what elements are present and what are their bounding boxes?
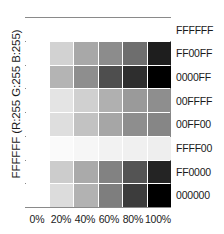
swatch-cell — [123, 89, 147, 112]
swatch-cell — [99, 161, 123, 184]
swatch-cell — [148, 184, 172, 207]
swatch-cell — [25, 18, 49, 41]
row-label-000000: 000000 — [176, 183, 224, 207]
swatch-cell — [25, 113, 49, 136]
swatch-cell — [50, 89, 74, 112]
swatch-cell — [74, 66, 98, 89]
swatch-cell — [123, 113, 147, 136]
swatch-cell — [148, 89, 172, 112]
swatch-cell — [74, 89, 98, 112]
row-label-00ff00: 00FF00 — [176, 113, 224, 137]
swatch-cell — [99, 42, 123, 65]
swatch-cell — [25, 184, 49, 207]
swatch-cell — [74, 184, 98, 207]
swatch-cell — [50, 66, 74, 89]
x-tick-label: 40% — [73, 210, 97, 228]
swatch-grid — [25, 18, 171, 207]
swatch-cell — [99, 137, 123, 160]
swatch-cell — [123, 42, 147, 65]
swatch-cell — [74, 42, 98, 65]
x-tick-label: 60% — [97, 210, 121, 228]
swatch-cell — [123, 161, 147, 184]
swatch-cell — [50, 184, 74, 207]
row-label-ff00ff: FF00FF — [176, 42, 224, 66]
swatch-cell — [99, 184, 123, 207]
swatch-cell — [25, 161, 49, 184]
x-tick-label: 80% — [121, 210, 145, 228]
swatch-cell — [25, 42, 49, 65]
row-label-ffff00: FFFF00 — [176, 136, 224, 160]
x-tick-label: 100% — [145, 210, 171, 228]
x-axis-tick-labels: 0%20%40%60%80%100% — [25, 210, 171, 228]
swatch-cell — [50, 113, 74, 136]
row-label-0000ff: 0000FF — [176, 65, 224, 89]
swatch-cell — [74, 161, 98, 184]
swatch-cell — [74, 137, 98, 160]
color-matrix-chart: FFFFFF (R:255 G:255 B:255) FFFFFFFF00FF0… — [0, 0, 224, 234]
row-label-00ffff: 00FFFF — [176, 89, 224, 113]
swatch-cell — [148, 113, 172, 136]
swatch-cell — [25, 89, 49, 112]
swatch-cell — [74, 113, 98, 136]
row-label-column: FFFFFFFF00FF0000FF00FFFF00FF00FFFF00FF00… — [176, 18, 224, 207]
swatch-cell — [123, 184, 147, 207]
swatch-cell — [50, 137, 74, 160]
swatch-cell — [148, 18, 172, 41]
swatch-cell — [148, 66, 172, 89]
row-label-ff0000: FF0000 — [176, 160, 224, 184]
swatch-cell — [74, 18, 98, 41]
swatch-cell — [123, 18, 147, 41]
swatch-cell — [25, 66, 49, 89]
swatch-cell — [50, 18, 74, 41]
swatch-cell — [99, 113, 123, 136]
swatch-cell — [25, 137, 49, 160]
swatch-cell — [123, 66, 147, 89]
swatch-cell — [148, 161, 172, 184]
swatch-cell — [99, 89, 123, 112]
swatch-cell — [99, 18, 123, 41]
x-tick-label: 20% — [49, 210, 73, 228]
swatch-cell — [148, 137, 172, 160]
x-tick-label: 0% — [25, 210, 49, 228]
swatch-cell — [123, 137, 147, 160]
swatch-cell — [50, 42, 74, 65]
swatch-cell — [99, 66, 123, 89]
row-label-ffffff: FFFFFF — [176, 18, 224, 42]
y-axis-title: FFFFFF (R:255 G:255 B:255) — [10, 6, 26, 202]
swatch-cell — [50, 161, 74, 184]
swatch-cell — [148, 42, 172, 65]
